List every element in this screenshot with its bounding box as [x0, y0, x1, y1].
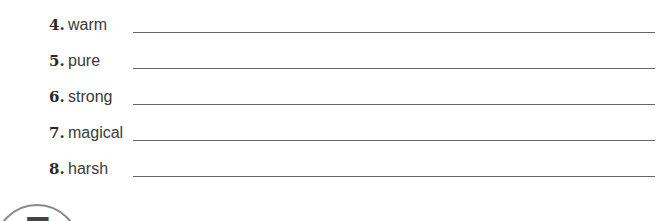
item-word: strong: [68, 89, 112, 105]
exercise-item: 8. harsh: [49, 157, 659, 177]
exercise-item: 4. warm: [49, 13, 659, 33]
answer-line[interactable]: [133, 104, 655, 105]
answer-line[interactable]: [133, 32, 655, 33]
item-word: warm: [68, 17, 107, 33]
item-number: 4.: [49, 18, 65, 33]
exercise-item: 6. strong: [49, 85, 659, 105]
section-number-badge: 7: [0, 204, 80, 221]
item-number: 8.: [49, 162, 65, 177]
answer-line[interactable]: [133, 176, 655, 177]
item-word: harsh: [68, 161, 108, 177]
item-number: 5.: [49, 54, 65, 69]
item-number: 6.: [49, 90, 65, 105]
exercise-item: 5. pure: [49, 49, 659, 69]
item-number: 7.: [49, 126, 65, 141]
answer-line[interactable]: [133, 140, 655, 141]
answer-line[interactable]: [133, 68, 655, 69]
exercise-item: 7. magical: [49, 121, 659, 141]
item-word: magical: [68, 125, 123, 141]
item-word: pure: [68, 53, 100, 69]
section-number: 7: [24, 212, 52, 221]
